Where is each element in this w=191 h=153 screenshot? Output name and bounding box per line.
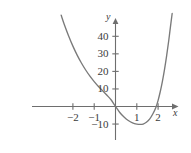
y-axis-tick-label: 40 <box>87 31 109 42</box>
x-axis-tick-label: 2 <box>149 112 167 123</box>
y-axis-tick-label: 10 <box>87 83 109 94</box>
y-axis-arrow-icon <box>113 18 119 24</box>
x-axis-tick-label: 1 <box>128 112 146 123</box>
y-axis-tick-label: −10 <box>87 119 109 130</box>
y-axis-label: y <box>106 12 110 22</box>
data-curve <box>61 13 172 124</box>
x-axis-label: x <box>173 108 177 118</box>
x-axis-tick-label: −2 <box>64 112 82 123</box>
chart-figure: −2−11240302010−10 x y <box>0 0 191 153</box>
y-axis-tick-label: 20 <box>87 66 109 77</box>
y-axis-tick-label: 30 <box>87 48 109 59</box>
